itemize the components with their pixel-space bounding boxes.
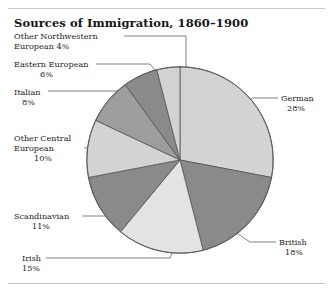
slice-label-german: German 28% [281, 93, 314, 113]
pie-slices [87, 67, 273, 253]
figure-panel: Sources of Immigration, 1860–1900 [0, 0, 333, 296]
label-percent: 15% [22, 263, 41, 273]
pie-chart [86, 66, 274, 254]
slice-label-irish: Irish 15% [22, 253, 41, 273]
page-title: Sources of Immigration, 1860–1900 [14, 16, 248, 30]
label-line-1: German [281, 93, 314, 103]
label-line-1: Scandinavian [14, 211, 69, 221]
label-percent: 28% [281, 103, 314, 113]
label-line-1: Irish [22, 253, 41, 263]
bottom-divider [8, 283, 325, 284]
slice-label-italian: Italian 8% [14, 87, 41, 107]
pie-chart-svg [86, 66, 274, 254]
label-line-2: European [14, 143, 54, 153]
slice-label-british: British 18% [279, 237, 307, 257]
label-percent: 8% [14, 97, 41, 107]
label-percent: 11% [14, 221, 69, 231]
label-line-1: Other Northwestern [14, 31, 98, 41]
label-line-1: Eastern European [14, 59, 88, 69]
slice-label-other-northwestern-european: Other Northwestern European 4% [14, 31, 98, 51]
label-line-2: European 4% [14, 41, 69, 51]
slice-label-other-central-european: Other Central European 10% [14, 133, 71, 164]
label-line-1: Other Central [14, 133, 71, 143]
slice-label-eastern-european: Eastern European 6% [14, 59, 88, 79]
label-line-1: British [279, 237, 307, 247]
label-line-1: Italian [14, 87, 41, 97]
label-percent: 6% [14, 69, 88, 79]
top-divider [8, 8, 325, 9]
label-percent: 18% [279, 247, 307, 257]
slice-label-scandinavian: Scandinavian 11% [14, 211, 69, 231]
pie-slice-german [180, 67, 273, 178]
label-percent: 10% [14, 153, 71, 163]
